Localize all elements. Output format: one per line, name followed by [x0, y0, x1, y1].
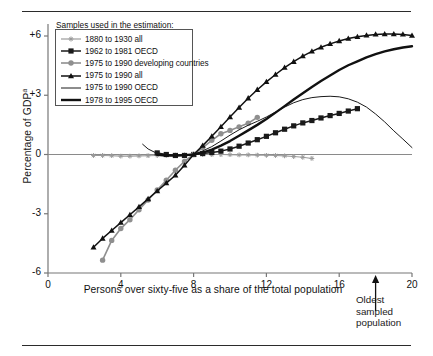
data-point-marker [355, 106, 360, 111]
data-point-marker [228, 152, 233, 157]
legend-key-icon [60, 70, 82, 82]
legend-key-icon [60, 82, 82, 94]
oldest-sampled-population-annotation: Oldest sampled population [356, 294, 401, 329]
data-point-marker [146, 153, 151, 158]
y-tick-label: 0 [35, 148, 41, 159]
data-point-marker [328, 113, 333, 118]
legend-item-1[interactable]: 1962 to 1981 OECD [60, 45, 192, 57]
data-point-marker [246, 152, 251, 157]
data-point-marker [309, 118, 314, 123]
data-point-marker [237, 144, 242, 149]
legend-key-icon [60, 94, 82, 106]
data-point-marker [318, 115, 323, 120]
data-point-marker [264, 153, 269, 158]
legend-item-5[interactable]: 1978 to 1995 OECD [60, 94, 192, 106]
data-point-marker [310, 156, 315, 161]
legend-item-label: 1975 to 1990 all [85, 71, 142, 80]
data-point-marker [255, 115, 260, 120]
x-tick-label: 20 [402, 279, 422, 290]
data-point-marker [68, 61, 73, 66]
legend-key-icon [60, 57, 82, 69]
data-point-marker [118, 226, 123, 231]
data-point-marker [109, 153, 114, 158]
legend-key-icon [60, 45, 82, 57]
legend-key-icon [60, 33, 82, 45]
data-point-marker [69, 37, 74, 42]
data-point-marker [100, 153, 105, 158]
annotation-line-3: population [356, 317, 401, 329]
data-point-marker [246, 140, 251, 145]
data-point-marker [91, 153, 96, 158]
legend-item-4[interactable]: 1975 to 1990 OECD [60, 82, 192, 94]
data-point-marker [227, 146, 232, 151]
data-point-marker [218, 149, 223, 154]
data-point-marker [291, 154, 296, 159]
data-point-marker [255, 137, 260, 142]
legend-item-label: 1978 to 1995 OECD [85, 96, 158, 105]
data-point-marker [337, 111, 342, 116]
y-tick-label: -6 [32, 266, 41, 277]
data-point-marker [264, 134, 269, 139]
annotation-line-1: Oldest [356, 294, 401, 306]
legend-item-label: 1962 to 1981 OECD [85, 47, 158, 56]
data-point-marker [100, 257, 105, 262]
series-1 [155, 106, 360, 158]
legend-item-label: 1975 to 1990 OECD [85, 83, 158, 92]
data-point-marker [137, 153, 142, 158]
data-point-marker [118, 154, 123, 159]
data-point-marker [300, 120, 305, 125]
legend-item-label: 1880 to 1930 all [85, 35, 142, 44]
data-point-marker [109, 238, 114, 243]
data-point-marker [255, 153, 260, 158]
legend-item-label: 1975 to 1990 developing countries [85, 59, 209, 68]
data-point-marker [227, 128, 232, 133]
y-axis-label: Percentage of GDPa [21, 66, 33, 206]
data-point-marker [291, 123, 296, 128]
data-point-marker [273, 130, 278, 135]
data-point-marker [282, 65, 288, 70]
legend-box: 1880 to 1930 all1962 to 1981 OECD1975 to… [55, 29, 193, 106]
y-tick-label: -3 [32, 207, 41, 218]
data-point-marker [300, 155, 305, 160]
legend-item-0[interactable]: 1880 to 1930 all [60, 33, 192, 45]
data-point-marker [68, 49, 73, 54]
data-point-marker [282, 153, 287, 158]
x-axis-label: Persons over sixty-five as a share of th… [48, 284, 378, 295]
data-point-marker [273, 153, 278, 158]
figure-container: -6-30+3+6048121620 Percentage of GDPa Pe… [0, 0, 433, 356]
data-point-marker [128, 154, 133, 159]
data-point-marker [346, 108, 351, 113]
annotation-line-2: sampled [356, 306, 401, 318]
y-axis-label-superscript: a [21, 89, 28, 93]
data-point-marker [127, 217, 132, 222]
data-point-marker [282, 127, 287, 132]
oldest-population-arrow-head [372, 275, 379, 283]
data-point-marker [237, 152, 242, 157]
y-axis-label-text: Percentage of GDP [22, 93, 33, 184]
y-tick-label: +6 [30, 29, 41, 40]
legend-item-3[interactable]: 1975 to 1990 all [60, 70, 192, 82]
legend-item-2[interactable]: 1975 to 1990 developing countries [60, 57, 192, 69]
data-point-marker [218, 131, 223, 136]
